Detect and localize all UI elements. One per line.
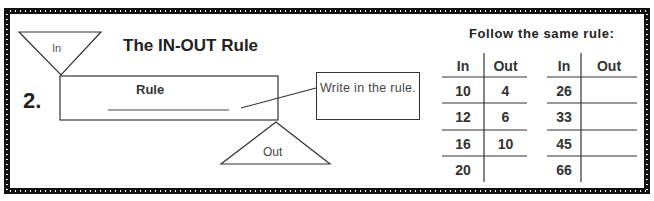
right-table-out-cell[interactable]	[581, 136, 637, 152]
left-table-in-cell: 16	[442, 136, 484, 152]
left-table-header-out: Out	[484, 58, 527, 74]
worksheet-title: The IN-OUT Rule	[123, 36, 258, 56]
left-table-out-cell[interactable]: 6	[484, 109, 527, 125]
left-table-out-cell[interactable]	[484, 162, 527, 178]
left-table-in-cell: 10	[442, 83, 484, 99]
right-table-in-cell: 33	[547, 109, 581, 125]
left-table-in-cell: 20	[442, 162, 484, 178]
in-triangle-label: In	[52, 42, 61, 54]
tables-heading: Follow the same rule:	[469, 26, 615, 41]
rule-answer-field[interactable]	[108, 94, 229, 110]
problem-number: 2.	[23, 88, 41, 114]
right-table-header-out: Out	[581, 58, 637, 74]
right-table-header-in: In	[547, 58, 581, 74]
callout-box: Write in the rule.	[316, 72, 420, 120]
left-table-out-cell[interactable]: 10	[484, 136, 527, 152]
right-table-in-cell: 45	[547, 136, 581, 152]
left-table-header-in: In	[442, 58, 484, 74]
out-triangle-label: Out	[263, 145, 282, 159]
right-table-out-cell[interactable]	[581, 162, 637, 178]
right-table-in-cell: 66	[547, 162, 581, 178]
left-table-out-cell[interactable]: 4	[484, 83, 527, 99]
right-table-out-cell[interactable]	[581, 109, 637, 125]
right-table-in-cell: 26	[547, 83, 581, 99]
left-table-in-cell: 12	[442, 109, 484, 125]
right-table-out-cell[interactable]	[581, 83, 637, 99]
